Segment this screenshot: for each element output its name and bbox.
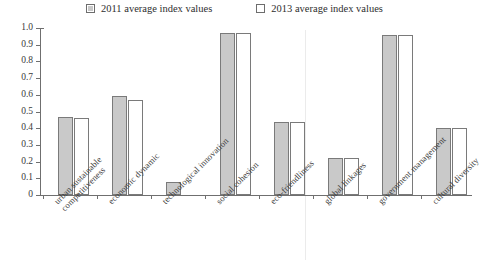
y-tick-label: 0.6 <box>21 90 33 100</box>
x-tick <box>97 195 98 199</box>
legend-item-2011: 2011 average index values <box>86 3 212 14</box>
y-tick <box>36 45 40 46</box>
x-tick <box>367 195 368 199</box>
y-tick <box>36 112 40 113</box>
y-tick <box>36 28 40 29</box>
y-tick <box>36 78 40 79</box>
y-tick <box>36 61 40 62</box>
x-tick <box>151 195 152 199</box>
y-tick-label: 0.4 <box>21 123 33 133</box>
x-tick <box>43 195 44 199</box>
x-tick <box>205 195 206 199</box>
x-axis-line <box>40 195 472 196</box>
hollow-square-icon <box>256 4 265 13</box>
chart-legend: 2011 average index values 2013 average i… <box>86 3 383 14</box>
y-tick-label: 0.2 <box>21 157 33 167</box>
y-tick <box>36 162 40 163</box>
y-tick <box>36 178 40 179</box>
legend-label-2013: 2013 average index values <box>271 3 383 14</box>
y-axis-line <box>40 28 41 195</box>
y-tick-label: 0.1 <box>21 174 33 184</box>
y-tick <box>36 128 40 129</box>
bar-chart: 2011 average index values 2013 average i… <box>0 0 484 277</box>
x-tick <box>259 195 260 199</box>
bar <box>382 35 397 195</box>
y-tick-label: 0 <box>28 190 33 200</box>
y-tick-label: 0.3 <box>21 140 33 150</box>
legend-label-2011: 2011 average index values <box>101 3 212 14</box>
x-tick <box>421 195 422 199</box>
filled-square-icon <box>86 4 95 13</box>
y-tick <box>36 195 40 196</box>
y-tick-label: 0.5 <box>21 107 33 117</box>
y-tick-label: 0.7 <box>21 73 33 83</box>
y-tick <box>36 95 40 96</box>
y-tick-label: 0.8 <box>21 57 33 67</box>
y-tick-label: 1.0 <box>21 23 33 33</box>
bar <box>220 33 235 195</box>
x-tick <box>313 195 314 199</box>
y-tick <box>36 145 40 146</box>
y-axis-top-cap <box>40 28 44 29</box>
y-tick-label: 0.9 <box>21 40 33 50</box>
legend-item-2013: 2013 average index values <box>256 3 383 14</box>
